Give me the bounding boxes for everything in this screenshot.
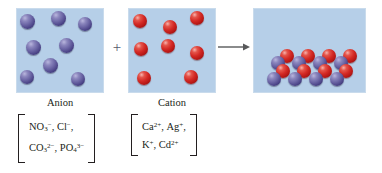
anion-ion-list: NO3−, Cl−,CO32−, PO43− [18,114,95,163]
cation-sphere [133,14,147,28]
cation-sphere [190,46,204,60]
anion-sphere [20,70,34,84]
left-bracket [131,114,138,156]
anion-sphere [20,14,35,29]
anion-ion-line: NO3−, Cl−, [29,117,84,138]
anion-sphere [59,38,74,53]
cation-sphere [184,70,198,84]
cation-sphere [161,39,175,53]
cation-ion-line: K+, Cd2+ [142,135,186,153]
lattice-anion-sphere [267,72,281,86]
anion-ion-lines: NO3−, Cl−,CO32−, PO43− [28,114,85,163]
lattice-anion-sphere [330,72,344,86]
cation-ion-lines: Ca2+, Ag+,K+, Cd2+ [141,114,187,156]
lattice-anion-sphere [309,72,323,86]
lattice-anion-sphere [288,72,302,86]
cation-ion-line: Ca2+, Ag+, [142,117,186,135]
left-bracket [18,114,25,163]
cation-sphere [190,11,204,25]
anion-sphere [43,58,58,73]
cation-sphere [137,71,151,85]
reaction-arrow-icon [218,40,250,54]
cation-sphere [134,42,148,56]
cation-sphere [163,20,177,34]
anion-ion-line: CO32−, PO43− [29,138,84,159]
anion-sphere [26,40,41,55]
anion-sphere [71,72,85,86]
right-bracket [190,114,197,156]
anion-sphere [51,11,66,26]
cation-ion-list: Ca2+, Ag+,K+, Cd2+ [131,114,197,156]
cation-caption: Cation [128,97,216,108]
right-bracket [88,114,95,163]
plus-operator: + [110,40,124,54]
anion-sphere [78,17,92,31]
anion-caption: Anion [16,97,104,108]
figure-canvas: + Anion Cation NO3−, Cl−,CO32−, PO43− Ca… [0,0,382,173]
